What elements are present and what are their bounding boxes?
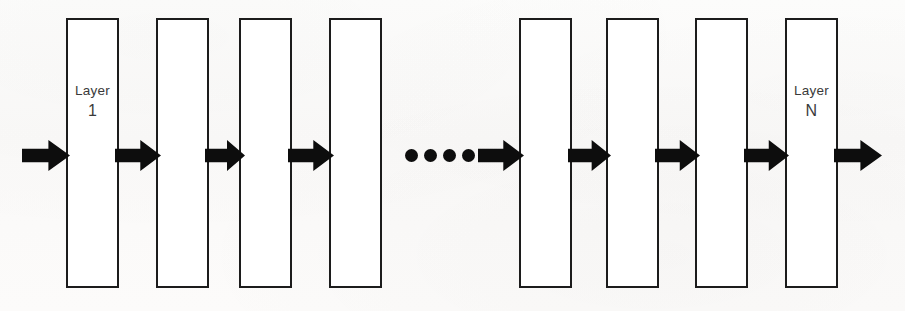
layer-box: Layer1 — [66, 18, 119, 288]
layer-box — [239, 18, 292, 288]
flow-arrow-icon — [205, 139, 245, 172]
layer-box — [156, 18, 209, 288]
diagram-canvas: Layer1LayerN — [0, 0, 905, 311]
flow-arrow-icon — [478, 139, 524, 172]
layer-box: LayerN — [785, 18, 838, 288]
ellipsis-dot — [424, 149, 437, 162]
ellipsis-dots — [405, 149, 475, 162]
ellipsis-dot — [462, 149, 475, 162]
flow-arrow-icon — [568, 139, 611, 172]
flow-arrow-icon — [115, 139, 161, 172]
flow-arrow-icon — [22, 139, 70, 172]
flow-arrow-icon — [288, 139, 334, 172]
layer-box — [519, 18, 572, 288]
layer-label-name: Layer — [787, 82, 836, 100]
layer-box — [329, 18, 382, 288]
layer-label-name: Layer — [68, 82, 117, 100]
layer-box — [695, 18, 748, 288]
layer-label-index: N — [787, 100, 836, 122]
layer-box — [606, 18, 659, 288]
ellipsis-dot — [405, 149, 418, 162]
layer-box-label: LayerN — [787, 82, 836, 122]
layer-label-index: 1 — [68, 100, 117, 122]
layer-box-label: Layer1 — [68, 82, 117, 122]
flow-arrow-icon — [834, 139, 882, 172]
flow-arrow-icon — [744, 139, 789, 172]
ellipsis-dot — [443, 149, 456, 162]
flow-arrow-icon — [655, 139, 700, 172]
